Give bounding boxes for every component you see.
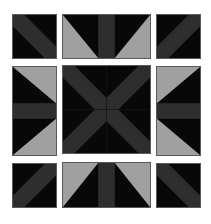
- tile-top-right[interactable]: [156, 14, 201, 59]
- tile-bottom-right[interactable]: [156, 163, 201, 208]
- vertical-band-graphic: [63, 15, 150, 58]
- tile-bottom-left[interactable]: [12, 163, 57, 208]
- tile-top-left[interactable]: [12, 14, 57, 59]
- diagonal-band-graphic: [13, 164, 56, 207]
- diagonal-band-graphic: [157, 164, 200, 207]
- tile-middle-left[interactable]: [12, 66, 57, 156]
- tile-bottom-center[interactable]: [62, 162, 151, 208]
- tile-center[interactable]: [62, 65, 151, 154]
- horizontal-band-graphic: [13, 67, 56, 155]
- diagonal-band-graphic: [157, 15, 200, 58]
- tile-middle-right[interactable]: [156, 66, 201, 156]
- horizontal-band-graphic: [157, 67, 200, 155]
- tile-top-center[interactable]: [62, 14, 151, 59]
- x-cross-graphic: [63, 66, 150, 153]
- vertical-band-graphic: [63, 163, 150, 207]
- diagonal-band-graphic: [13, 15, 56, 58]
